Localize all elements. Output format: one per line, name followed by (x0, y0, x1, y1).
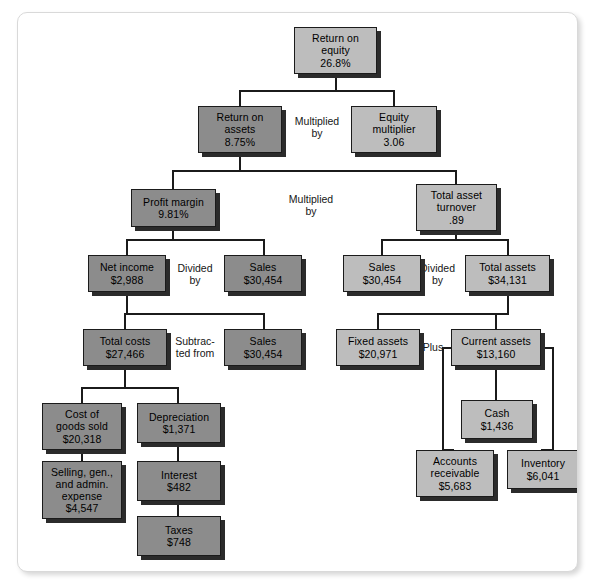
node-value: $6,041 (527, 470, 560, 482)
connector-ca-ar-v (442, 347, 444, 450)
connector-roa-bus (172, 170, 456, 172)
connector-ca-bus (377, 313, 509, 315)
node-taxes[interactable]: Taxes $748 (137, 516, 221, 556)
connector-roa-up (239, 90, 241, 106)
node-value: $27,466 (106, 348, 145, 360)
node-profit-margin[interactable]: Profit margin 9.81% (131, 189, 216, 227)
node-line: Total costs (100, 335, 151, 347)
connector-tc-bus (124, 313, 265, 315)
connector-roe-down (335, 74, 337, 91)
connector-ni-up (126, 239, 128, 255)
node-sales-profit-margin[interactable]: Sales $30,454 (224, 255, 302, 292)
operator-multiplied-by-top: Multiplied by (283, 115, 351, 139)
connector-ni-down (126, 292, 128, 314)
connector-salestc-up (263, 313, 265, 329)
node-line: Depreciation (149, 411, 209, 423)
connector-interest-taxes (177, 501, 179, 516)
connector-curassets-up (495, 313, 497, 329)
node-line: equity (321, 44, 350, 56)
connector-roa-down (239, 153, 241, 171)
connector-cogs-up (81, 387, 83, 403)
node-value: $748 (167, 536, 191, 548)
node-sales-total-costs[interactable]: Sales $30,454 (224, 329, 302, 366)
node-value: $30,454 (363, 274, 402, 286)
node-total-asset-turnover[interactable]: Total asset turnover .89 (416, 184, 497, 231)
node-line: Sales (369, 261, 396, 273)
connector-ca-inv-v (552, 347, 554, 450)
node-line: Net income (100, 261, 154, 273)
connector-tc-up (124, 313, 126, 329)
node-line: Cost of (65, 408, 99, 420)
node-fixed-assets[interactable]: Fixed assets $20,971 (336, 329, 420, 366)
node-line: Taxes (165, 524, 193, 536)
connector-tc-down (124, 366, 126, 388)
node-line: receivable (431, 467, 480, 479)
connector-cogs-bus (81, 387, 179, 389)
node-return-on-assets[interactable]: Return on assets 8.75% (198, 106, 282, 153)
node-inventory[interactable]: Inventory $6,041 (507, 450, 578, 489)
node-net-income[interactable]: Net income $2,988 (88, 255, 166, 292)
node-line: Interest (161, 469, 197, 481)
node-value: $30,454 (244, 348, 283, 360)
connector-salestat-up (381, 239, 383, 255)
node-line: Selling, gen., (51, 466, 113, 478)
node-value: 9.81% (158, 208, 188, 220)
node-line: Current assets (461, 335, 531, 347)
node-value: $20,971 (359, 348, 398, 360)
node-selling-general-admin-expense[interactable]: Selling, gen., and admin. expense $4,547 (42, 461, 122, 519)
connector-ca-cash (495, 366, 497, 400)
connector-cogs-sga (81, 450, 83, 461)
node-accounts-receivable[interactable]: Accounts receivable $5,683 (416, 450, 494, 497)
node-line: Accounts (433, 455, 477, 467)
node-value: 3.06 (384, 136, 405, 148)
node-line: expense (62, 490, 102, 502)
diagram-card: Return on equity 26.8% Return on assets … (17, 12, 578, 572)
node-line: Return on (216, 111, 263, 123)
node-value: $5,683 (439, 480, 472, 492)
node-value: $2,988 (111, 274, 144, 286)
operator-plus: Plus (418, 341, 448, 353)
node-value: $4,547 (66, 502, 99, 514)
node-value: .89 (449, 214, 464, 226)
node-line: Equity (379, 111, 409, 123)
node-current-assets[interactable]: Current assets $13,160 (451, 329, 541, 366)
connector-ta-up (507, 239, 509, 255)
connector-dep-up (177, 387, 179, 403)
node-value: 8.75% (225, 136, 255, 148)
node-value: $20,318 (63, 433, 102, 445)
node-line: Return on (312, 32, 359, 44)
node-total-costs[interactable]: Total costs $27,466 (83, 329, 167, 366)
node-sales-asset-turnover[interactable]: Sales $30,454 (343, 255, 421, 292)
operator-subtracted-from: Subtrac- ted from (166, 335, 224, 359)
connector-pm-bus (126, 239, 265, 241)
node-value: $1,436 (481, 420, 514, 432)
node-line: Total asset (431, 189, 482, 201)
node-value: $482 (167, 481, 191, 493)
node-cash[interactable]: Cash $1,436 (461, 400, 533, 439)
connector-fa-up (377, 313, 379, 329)
node-line: Inventory (521, 457, 565, 469)
diagram-stage: Return on equity 26.8% Return on assets … (18, 13, 577, 571)
connector-tat-up (455, 170, 457, 184)
node-interest[interactable]: Interest $482 (137, 461, 221, 501)
node-line: Sales (250, 261, 277, 273)
connector-dep-interest (177, 443, 179, 461)
connector-ta-down (507, 292, 509, 314)
node-cost-of-goods-sold[interactable]: Cost of goods sold $20,318 (42, 403, 122, 450)
node-line: goods sold (56, 420, 108, 432)
connector-em-up (393, 90, 395, 106)
node-line: Total assets (479, 261, 536, 273)
node-line: turnover (437, 201, 476, 213)
node-line: multiplier (372, 123, 415, 135)
node-depreciation[interactable]: Depreciation $1,371 (137, 403, 221, 443)
connector-tat-bus (381, 239, 509, 241)
operator-multiplied-by-mid: Multiplied by (266, 193, 356, 217)
node-return-on-equity[interactable]: Return on equity 26.8% (294, 27, 377, 74)
node-total-assets[interactable]: Total assets $34,131 (465, 255, 550, 292)
node-value: $34,131 (488, 274, 527, 286)
node-line: Fixed assets (348, 335, 408, 347)
connector-salespm-up (263, 239, 265, 255)
node-line: Sales (250, 335, 277, 347)
connector-pm-up (172, 170, 174, 189)
node-equity-multiplier[interactable]: Equity multiplier 3.06 (351, 106, 437, 153)
